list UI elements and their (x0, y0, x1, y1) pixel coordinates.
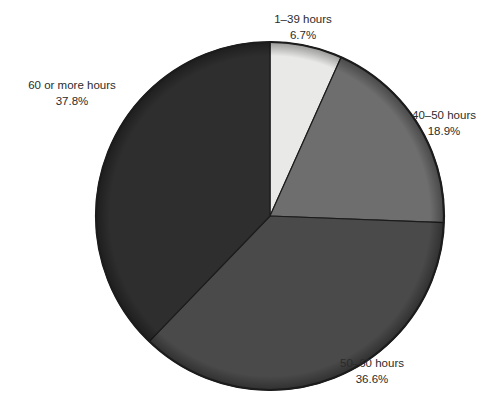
pie-label-1-39-hours: 1–39 hours 6.7% (248, 12, 358, 43)
pie-label-50-60-hours: 50–60 hours 36.6% (322, 356, 422, 387)
pie-label-category: 1–39 hours (248, 12, 358, 28)
pie-label-60-or-more-hours: 60 or more hours 37.8% (8, 78, 136, 109)
pie-label-percent: 18.9% (396, 124, 492, 140)
pie-label-percent: 37.8% (8, 94, 136, 110)
pie-label-percent: 6.7% (248, 28, 358, 44)
pie-label-percent: 36.6% (322, 372, 422, 388)
pie-label-category: 60 or more hours (8, 78, 136, 94)
pie-label-category: 40–50 hours (396, 108, 492, 124)
chart-canvas: 1–39 hours 6.7% 40–50 hours 18.9% 50–60 … (0, 0, 500, 411)
pie-label-category: 50–60 hours (322, 356, 422, 372)
pie-chart (0, 0, 500, 411)
pie-label-40-50-hours: 40–50 hours 18.9% (396, 108, 492, 139)
pie-rim-shading (96, 42, 444, 390)
